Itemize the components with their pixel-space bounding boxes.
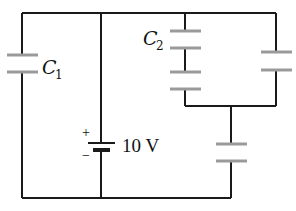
c1-subscript: 1 [55,68,63,82]
capacitor-series-lower [170,72,201,89]
battery: + − 10 V [82,125,159,163]
battery-voltage-label: 10 V [122,135,159,156]
capacitor-bottom [216,144,247,161]
battery-minus-sign: − [82,148,90,163]
c2-subscript: 2 [156,39,164,53]
circuit-diagram: C 1 C 2 + − 10 V [0,0,296,211]
capacitor-c2: C 2 [143,27,201,53]
capacitor-c1: C 1 [7,55,63,82]
capacitor-right [261,52,292,70]
battery-plus-sign: + [82,125,90,140]
